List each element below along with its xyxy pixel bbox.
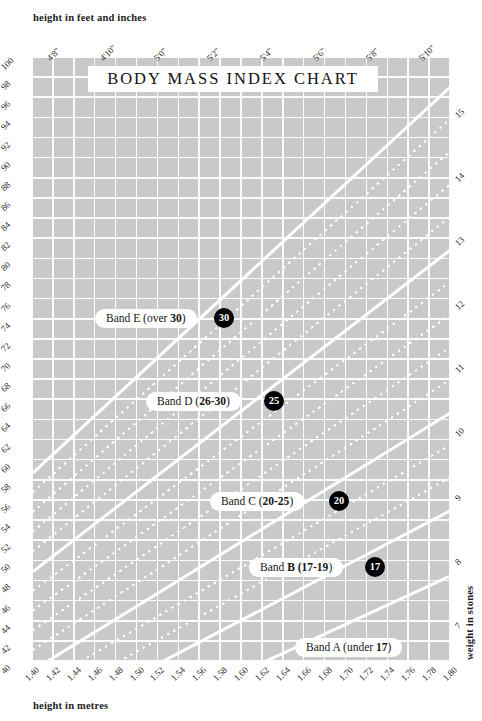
bmi-chart-page: height in feet and inches height in metr…	[0, 0, 482, 721]
left-tick-label: 56	[0, 501, 12, 514]
band-d-label-text: Band D (	[157, 395, 199, 407]
bottom-tick-label: 1.60	[232, 665, 250, 683]
gridline-horizontal	[32, 378, 450, 380]
gridline-horizontal	[32, 217, 450, 219]
left-tick-label: 64	[0, 421, 12, 434]
bottom-tick-label: 1.46	[86, 665, 104, 683]
left-tick-label: 94	[0, 119, 12, 132]
right-axis-caption: weight in stones	[464, 586, 475, 660]
band-d-label-tail: )	[226, 395, 230, 407]
left-tick-label: 62	[0, 441, 12, 454]
band-c-marker: 20	[329, 491, 349, 511]
left-tick-label: 54	[0, 522, 12, 535]
gridline-horizontal	[32, 580, 450, 582]
band-e-label-range: 30	[170, 312, 182, 324]
gridline-horizontal	[32, 197, 450, 199]
left-tick-label: 48	[0, 582, 12, 595]
right-tick-label: 9	[453, 493, 463, 503]
left-tick-label: 46	[0, 602, 12, 615]
left-tick-label: 90	[0, 159, 12, 172]
bottom-axis-caption: height in metres	[33, 700, 108, 711]
bottom-tick-label: 1.72	[357, 665, 375, 683]
band-a-label-tail: )	[387, 641, 391, 653]
bottom-tick-label: 1.40	[23, 665, 41, 683]
band-c-label: Band C (20-25)	[210, 492, 304, 511]
left-tick-label: 86	[0, 199, 12, 212]
left-tick-label: 76	[0, 300, 12, 313]
bottom-tick-label: 1.78	[420, 665, 438, 683]
plot-area	[32, 57, 450, 661]
bottom-tick-label: 1.44	[65, 665, 83, 683]
bottom-tick-label: 1.58	[211, 665, 229, 683]
left-tick-label: 96	[0, 99, 12, 112]
gridline-horizontal	[32, 338, 450, 340]
band-e-label: Band E (over 30)	[95, 309, 197, 328]
left-tick-label: 68	[0, 381, 12, 394]
left-tick-label: 42	[0, 642, 12, 655]
left-tick-label: 74	[0, 320, 12, 333]
band-b-label: Band B (17-19)	[249, 558, 343, 577]
left-tick-label: 84	[0, 220, 12, 233]
left-tick-label: 72	[0, 340, 12, 353]
gridline-horizontal	[32, 177, 450, 179]
gridline-horizontal	[32, 600, 450, 602]
gridline-horizontal	[32, 560, 450, 562]
bottom-tick-label: 1.42	[44, 665, 62, 683]
bottom-tick-label: 1.64	[274, 665, 292, 683]
left-tick-label: 82	[0, 240, 12, 253]
band-e-marker: 30	[214, 308, 234, 328]
gridline-horizontal	[32, 117, 450, 119]
left-tick-label: 50	[0, 562, 12, 575]
left-tick-label: 98	[0, 79, 12, 92]
bottom-tick-label: 1.70	[336, 665, 354, 683]
gridline-horizontal	[32, 157, 450, 159]
band-d-label-range: 26-30	[199, 395, 226, 407]
bottom-tick-label: 1.52	[148, 665, 166, 683]
left-tick-label: 70	[0, 361, 12, 374]
right-tick-label: 13	[453, 234, 466, 247]
band-a-label-text: Band A (under	[306, 641, 376, 653]
bottom-tick-label: 1.76	[399, 665, 417, 683]
bottom-tick-label: 1.68	[316, 665, 334, 683]
top-axis-caption: height in feet and inches	[33, 12, 147, 23]
left-tick-label: 60	[0, 461, 12, 474]
left-tick-label: 40	[0, 663, 12, 676]
right-tick-label: 14	[453, 170, 466, 183]
gridline-horizontal	[32, 398, 450, 400]
right-tick-label: 8	[453, 557, 463, 567]
right-tick-label: 10	[453, 426, 466, 439]
band-d-label: Band D (26-30)	[146, 392, 241, 411]
band-a-label-range: 17	[376, 641, 388, 653]
band-e-label-text: Band E (over	[106, 312, 170, 324]
band-c-label-text: Band C (	[221, 495, 263, 507]
right-tick-label: 15	[453, 106, 466, 119]
bottom-tick-label: 1.50	[127, 665, 145, 683]
bottom-tick-label: 1.66	[295, 665, 313, 683]
band-a-label: Band A (under 17)	[295, 638, 402, 657]
gridline-horizontal	[32, 439, 450, 441]
right-tick-label: 12	[453, 298, 466, 311]
band-b-label-range: B (17-19	[287, 561, 328, 573]
bottom-tick-label: 1.74	[378, 665, 396, 683]
band-b-marker: 17	[365, 557, 385, 577]
left-tick-label: 44	[0, 622, 12, 635]
right-tick-label: 7	[453, 621, 463, 631]
bottom-tick-label: 1.56	[190, 665, 208, 683]
left-tick-label: 88	[0, 179, 12, 192]
bottom-tick-label: 1.62	[253, 665, 271, 683]
gridline-horizontal	[32, 137, 450, 139]
left-tick-label: 66	[0, 401, 12, 414]
gridline-horizontal	[32, 96, 450, 98]
left-tick-label: 80	[0, 260, 12, 273]
right-tick-label: 11	[453, 362, 466, 375]
band-d-marker: 25	[264, 391, 284, 411]
bottom-tick-label: 1.48	[107, 665, 125, 683]
band-e-label-tail: )	[182, 312, 186, 324]
bottom-tick-label: 1.54	[169, 665, 187, 683]
left-tick-label: 78	[0, 280, 12, 293]
gridline-horizontal	[32, 57, 450, 58]
left-tick-label: 100	[0, 55, 16, 72]
gridline-horizontal	[32, 660, 450, 661]
left-tick-label: 58	[0, 481, 12, 494]
left-tick-label: 52	[0, 542, 12, 555]
